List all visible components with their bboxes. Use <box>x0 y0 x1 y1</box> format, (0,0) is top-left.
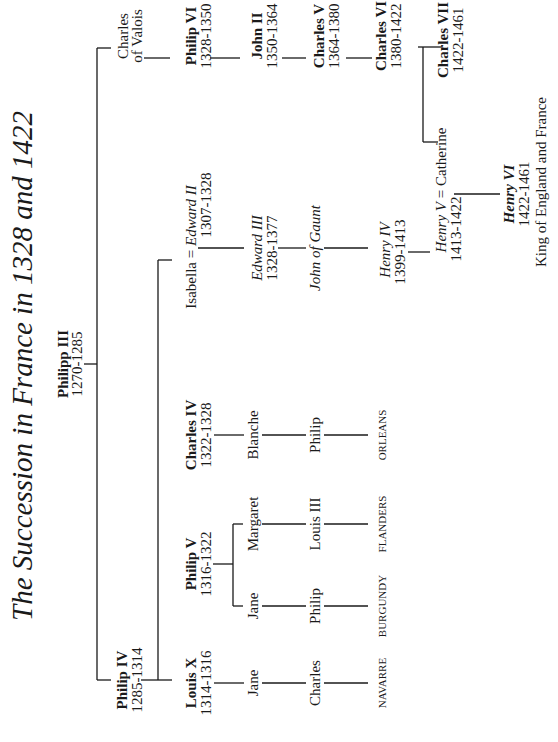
person-dates: 1422-1461 <box>450 8 466 73</box>
person-name: Philip <box>307 588 323 624</box>
person-blanche: Blanche <box>245 410 261 459</box>
person-dates: 1322-1328 <box>198 403 214 468</box>
marriage-symbol: = <box>433 190 449 198</box>
person-name: of Valois <box>129 9 145 63</box>
person-dates: 1307-1328 <box>198 173 214 238</box>
person-dates: 1270-1285 <box>69 332 85 397</box>
person-john-ii: John II 1350-1364 <box>249 3 280 68</box>
person-dates: 1328-1377 <box>264 215 280 280</box>
person-dates: 1380-1422 <box>388 4 404 69</box>
chart-title: The Succession in France in 1328 and 142… <box>6 111 38 621</box>
person-name: Charles IV <box>183 400 199 471</box>
person-dates: 1364-1380 <box>326 4 342 69</box>
person-name: Charles VII <box>435 2 451 78</box>
person-charles-vi: Charles VI 1380-1422 <box>373 1 404 71</box>
person-name: Edward II <box>183 184 199 247</box>
person-dates: 1285-1314 <box>129 647 145 712</box>
genealogy-chart: The Succession in France in 1328 and 142… <box>0 0 558 742</box>
person-charles-v: Charles V 1364-1380 <box>311 4 342 69</box>
person-jane-burgundy: Jane <box>245 592 261 619</box>
house-orleans: ORLEANS <box>376 410 388 461</box>
person-dates: 1328-1350 <box>198 4 214 69</box>
person-name: Louis X <box>183 658 199 709</box>
person-philip-iv: Philip IV 1285-1314 <box>114 647 145 712</box>
person-margaret: Margaret <box>245 496 261 552</box>
person-dates: 1314-1316 <box>198 650 214 715</box>
person-name: Louis III <box>307 498 323 551</box>
person-charles-vii: Charles VII 1422-1461 <box>435 2 466 78</box>
person-philip-vi: Philip VI 1328-1350 <box>183 4 214 69</box>
person-name: Henry IV <box>377 220 393 278</box>
person-isabella-edward-ii: Isabella = Edward II 1307-1328 <box>183 173 214 309</box>
house-label: BURGUNDY <box>376 575 388 637</box>
person-henry-vi: Henry VI 1422-1461 King of England and F… <box>501 97 549 267</box>
person-charles-iv: Charles IV 1322-1328 <box>183 400 214 471</box>
person-name: Charles <box>307 660 323 706</box>
marriage-symbol: = <box>183 250 199 258</box>
person-dates: 1316-1322 <box>198 532 214 597</box>
person-philipp-iii: Philipp III 1270-1285 <box>55 330 85 398</box>
person-name: John II <box>249 12 265 59</box>
house-label: ORLEANS <box>376 410 388 461</box>
house-flanders: FLANDERS <box>376 496 388 553</box>
house-label: NAVARRE <box>376 658 388 709</box>
house-navarre: NAVARRE <box>376 658 388 709</box>
person-name: Isabella <box>183 262 199 309</box>
person-name: Philip IV <box>114 650 130 709</box>
person-dates: 1350-1364 <box>264 3 280 68</box>
person-name: Margaret <box>245 496 261 552</box>
person-name: Philip V <box>183 538 199 591</box>
person-dates: 1422-1461 <box>516 162 532 227</box>
person-henry-iv: Henry IV 1399-1413 <box>377 220 408 285</box>
person-louis-x: Louis X 1314-1316 <box>183 650 214 715</box>
person-name: Edward III <box>249 214 265 282</box>
person-dates: 1413-1422 <box>448 197 464 262</box>
person-name: Jane <box>245 592 261 619</box>
person-name: Blanche <box>245 410 261 459</box>
person-name: Charles VI <box>373 1 389 71</box>
person-philip-v: Philip V 1316-1322 <box>183 532 214 597</box>
person-charles-navarre: Charles <box>307 660 323 706</box>
person-name: Henry V <box>433 200 449 253</box>
person-charles-of-valois: Charles of Valois <box>115 9 145 63</box>
person-edward-iii: Edward III 1328-1377 <box>249 214 280 282</box>
person-name: Philip <box>307 417 323 453</box>
person-jane-navarre: Jane <box>245 669 261 696</box>
person-philip-orleans: Philip <box>307 417 323 453</box>
person-name: Philip VI <box>183 7 199 66</box>
person-name: Jane <box>245 669 261 696</box>
house-burgundy: BURGUNDY <box>376 575 388 637</box>
person-name: John of Gaunt <box>307 204 323 291</box>
person-name: Catherine <box>433 127 449 186</box>
person-name: Henry VI <box>501 163 517 224</box>
house-label: FLANDERS <box>376 496 388 553</box>
person-dates: 1399-1413 <box>392 220 408 285</box>
person-philip-burgundy: Philip <box>307 588 323 624</box>
person-note: King of England and France <box>533 97 549 267</box>
person-john-of-gaunt: John of Gaunt <box>307 204 323 291</box>
person-name: Charles V <box>311 4 327 68</box>
person-louis-iii: Louis III <box>307 498 323 551</box>
